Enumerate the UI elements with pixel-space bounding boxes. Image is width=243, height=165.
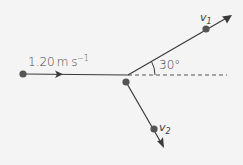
velocity-exponent: −1 xyxy=(77,54,89,63)
v2-path-line xyxy=(126,82,163,146)
angle-value: 30° xyxy=(159,58,180,72)
v2-label: v2 xyxy=(159,122,171,136)
velocity-unit: m s xyxy=(57,55,77,69)
v2-dot xyxy=(150,125,157,132)
initial-velocity-label: 1.20m s−1 xyxy=(28,55,89,68)
v2-arrow-icon xyxy=(157,137,164,148)
angle-arc xyxy=(152,62,156,76)
lower-dot xyxy=(122,78,129,85)
v1-label: v1 xyxy=(200,12,212,26)
velocity-value: 1.20 xyxy=(28,55,55,69)
v1-dot xyxy=(202,25,209,32)
angle-label: 30° xyxy=(159,59,180,71)
collision-diagram: 1.20m s−1 30° v1 v2 xyxy=(0,0,243,165)
start-dot xyxy=(19,70,26,77)
v1-subscript: 1 xyxy=(207,17,212,26)
v2-subscript: 2 xyxy=(166,127,171,136)
incoming-path-line xyxy=(23,74,128,75)
